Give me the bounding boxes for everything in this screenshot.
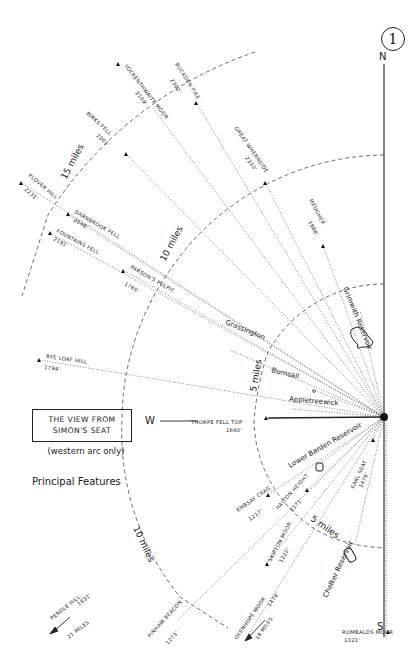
ring-15-miles-n xyxy=(22,52,255,296)
north-label: N xyxy=(379,51,386,62)
ring-label-5-miles-n: 5 miles xyxy=(248,358,264,392)
label-pendle-name: PENDLE HILL xyxy=(49,594,82,621)
summit-marker-embsay xyxy=(266,493,270,497)
thorpe-fell-line xyxy=(268,417,384,418)
label-lower-barden-reservoir: Lower Barden Reservoir xyxy=(287,421,363,470)
sight-embsay xyxy=(268,417,384,495)
label-rye-loaf: RYE LOAF HILL xyxy=(46,353,88,365)
page-number-badge: 1 xyxy=(381,27,405,51)
label-rombalds-name: ROMBALDS MOOR xyxy=(342,629,393,635)
summit-marker-skipton xyxy=(265,562,269,566)
summit-marker-great-whernside xyxy=(263,181,267,185)
summit-marker-rye-loaf xyxy=(37,358,41,362)
label-plover-height: 2231' xyxy=(23,186,39,201)
sight-skipton xyxy=(267,417,384,563)
label-rye-loaf-height: 1794' xyxy=(44,364,61,372)
label-grimwith-reservoir: Grimwith Reservoir xyxy=(341,286,374,351)
subtitle: (western arc only) xyxy=(36,446,136,456)
summit-marker-yockenthwaite xyxy=(116,62,120,66)
sight-darnbrook xyxy=(68,215,384,417)
ring-label-10-miles-s: 10 miles xyxy=(131,525,156,564)
legend-heading: Principal Features xyxy=(32,476,121,487)
label-burnsall: Burnsall xyxy=(271,366,300,381)
simons-seat-marker xyxy=(380,413,388,421)
label-thorpe-height: 1660' xyxy=(226,427,242,433)
summit-marker-birks xyxy=(124,152,128,156)
label-halton-height: 1171' xyxy=(288,497,303,513)
summit-marker-fountains xyxy=(48,231,52,235)
title-box: THE VIEW FROM SIMON'S SEAT xyxy=(32,409,132,442)
label-buckden-name: BUCKDEN PIKE xyxy=(174,61,201,100)
sight-meugher xyxy=(323,245,384,417)
summit-marker-parsons xyxy=(121,269,125,273)
view-diagram: N S W 15 miles 10 miles 5 miles 10 miles… xyxy=(0,0,413,665)
label-oxenhope-height: 1474' xyxy=(266,591,280,608)
sight-pinhaw xyxy=(178,417,384,620)
label-grassington: Grassington xyxy=(224,318,266,341)
label-pinhaw-height: 1273' xyxy=(164,630,179,646)
ring-label-5-miles-s: 5 miles xyxy=(309,513,342,540)
summit-marker-plover xyxy=(19,181,23,185)
label-embsay-height: 1217' xyxy=(247,508,264,522)
label-pendle-distance: 21 MILES xyxy=(66,619,90,640)
lower-barden-reservoir-shape xyxy=(316,463,323,471)
ring-label-10-miles-n: 10 miles xyxy=(158,224,185,263)
summit-marker-meugher xyxy=(321,244,325,248)
ring-label-15-miles: 15 miles xyxy=(59,142,86,181)
summit-marker-earl-seat xyxy=(371,438,375,442)
summit-marker-buckden xyxy=(194,101,198,105)
sight-appletreewick xyxy=(292,409,384,417)
summit-marker-thorpe xyxy=(264,416,268,420)
label-embsay-name: EMBSAY CRAG xyxy=(235,485,272,513)
title-line-2: SIMON'S SEAT xyxy=(33,425,131,436)
label-skipton-height: 1222' xyxy=(278,546,291,563)
label-rombalds-height: 1321' xyxy=(344,637,360,643)
west-label: W xyxy=(145,415,155,426)
label-thorpe-name: THORPE FELL TOP xyxy=(190,419,242,425)
label-chelker-reservoir: Chelker Reservoir xyxy=(322,539,355,598)
label-meugher-height: 1888' xyxy=(307,220,320,237)
label-yockenthwaite-name: YOCKENTHWAITE MOOR xyxy=(123,62,170,120)
title-line-1: THE VIEW FROM xyxy=(33,414,131,425)
sight-yockenthwaite xyxy=(152,107,384,417)
label-parsons-height: 1765' xyxy=(124,281,141,294)
